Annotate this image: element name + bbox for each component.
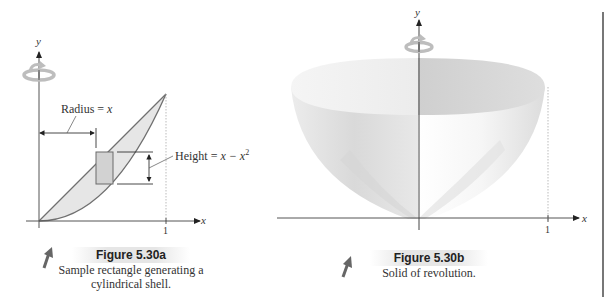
paraboloid-solid	[291, 58, 545, 219]
y-axis-label: y	[35, 35, 41, 47]
x-tick-label: 1	[163, 225, 168, 236]
height-leader	[149, 156, 173, 168]
figure-b-caption-text: Solid of revolution.	[354, 266, 504, 280]
radius-leader	[67, 116, 76, 133]
figure-a-caption: Figure 5.30a Sample rectangle generating…	[46, 245, 216, 291]
figure-a-title: Figure 5.30a	[72, 247, 190, 263]
figure-a-caption-line2: cylindrical shell.	[46, 277, 216, 291]
figure-b-caption: Figure 5.30b Solid of revolution.	[354, 248, 504, 280]
x-axis-label-b: x	[581, 212, 587, 224]
figure-b-title: Figure 5.30b	[370, 250, 489, 266]
x-axis-label: x	[200, 214, 206, 226]
page-margin-rule	[602, 12, 604, 297]
y-axis-label-b: y	[414, 6, 420, 18]
figure-a-caption-line1: Sample rectangle generating a	[46, 263, 216, 277]
pointer-arrow-icon	[343, 256, 352, 277]
sample-rectangle	[96, 152, 113, 184]
x-tick-label-b: 1	[545, 224, 550, 235]
height-label: Height = x − x2	[175, 148, 249, 163]
radius-label: Radius = x	[61, 102, 113, 116]
